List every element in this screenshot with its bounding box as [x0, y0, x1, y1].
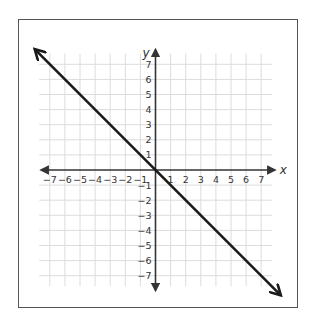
- x-tick-label: −6: [58, 174, 72, 185]
- y-axis-label: y: [142, 46, 151, 60]
- y-tick-label: 2: [145, 134, 151, 145]
- x-tick-label: −2: [118, 174, 132, 185]
- coordinate-plane: −7−6−5−4−3−2−112345677654321−1−2−3−4−5−6…: [0, 0, 312, 321]
- x-tick-label: 3: [198, 174, 204, 185]
- x-axis-label: x: [279, 163, 288, 177]
- y-tick-label: 4: [145, 104, 151, 115]
- line-series: [35, 49, 281, 295]
- x-tick-label: 7: [258, 174, 264, 185]
- x-tick-label: 6: [243, 174, 249, 185]
- y-tick-label: −1: [137, 180, 151, 191]
- x-tick-label: −4: [88, 174, 102, 185]
- y-tick-label: 5: [145, 89, 151, 100]
- y-tick-label: 1: [145, 149, 151, 160]
- y-tick-label: −2: [137, 195, 151, 206]
- y-tick-label: 6: [145, 74, 151, 85]
- y-tick-label: −5: [137, 240, 151, 251]
- x-tick-label: −7: [43, 174, 57, 185]
- y-tick-label: −6: [137, 255, 151, 266]
- y-tick-label: 3: [145, 119, 151, 130]
- y-tick-label: −3: [137, 210, 151, 221]
- x-tick-label: −3: [103, 174, 117, 185]
- y-tick-label: 7: [145, 59, 151, 70]
- x-tick-label: −5: [73, 174, 87, 185]
- y-tick-label: −4: [137, 225, 151, 236]
- x-tick-label: 5: [228, 174, 234, 185]
- x-tick-label: 4: [213, 174, 219, 185]
- x-tick-label: 2: [183, 174, 189, 185]
- y-tick-label: −7: [137, 270, 151, 281]
- data-series: [35, 49, 281, 295]
